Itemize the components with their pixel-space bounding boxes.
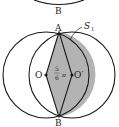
- angle-numerator: 5: [55, 65, 59, 72]
- label-s1-sub: 1: [91, 26, 94, 32]
- top-label-b: B: [55, 6, 62, 16]
- label-a: A: [54, 23, 62, 33]
- angle-denominator: 6: [55, 74, 59, 81]
- label-s1: S: [84, 21, 90, 31]
- label-o-prime: O′: [74, 70, 83, 80]
- previous-figure-arc: [34, 0, 84, 5]
- geometry-figure: B A B O O′ 5 6 π S 1: [0, 0, 119, 127]
- label-b: B: [55, 118, 62, 127]
- point-o-dot: [44, 73, 47, 76]
- label-o: O: [35, 70, 42, 80]
